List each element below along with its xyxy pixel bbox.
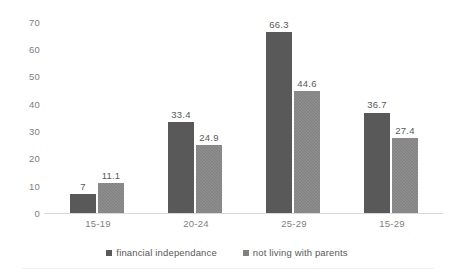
bar-group: 33.4 24.9 <box>146 14 244 213</box>
y-tick-label: 50 <box>6 72 40 82</box>
legend-swatch-icon <box>106 250 112 256</box>
y-tick-label: 0 <box>6 209 40 219</box>
legend-item-financial-independance[interactable]: financial independance <box>106 248 217 258</box>
y-tick-label: 70 <box>6 18 40 28</box>
bar-value-label: 33.4 <box>159 110 203 120</box>
legend-item-not-living-with-parents[interactable]: not living with parents <box>243 248 348 258</box>
bar-value-label: 11.1 <box>89 171 133 181</box>
y-tick-label: 60 <box>6 45 40 55</box>
legend-label: not living with parents <box>253 248 348 258</box>
plot-area: 7 11.1 33.4 24.9 66.3 <box>48 14 442 213</box>
bar-not-living-with-parents[interactable] <box>294 91 320 213</box>
bar-value-label: 44.6 <box>285 79 329 89</box>
bar-value-label: 66.3 <box>257 20 301 30</box>
footer-divider <box>22 268 434 269</box>
bar-group: 36.7 27.4 <box>342 14 440 213</box>
chart-legend: financial independance not living with p… <box>0 248 454 258</box>
bar-group: 66.3 44.6 <box>244 14 342 213</box>
x-category-label: 25-29 <box>244 219 344 229</box>
legend-label: financial independance <box>116 248 217 258</box>
y-tick-label: 30 <box>6 127 40 137</box>
y-tick-label: 20 <box>6 154 40 164</box>
y-axis: 70 60 50 40 30 20 10 0 <box>0 0 40 278</box>
x-category-label: 20-24 <box>146 219 246 229</box>
y-tick-label: 10 <box>6 182 40 192</box>
bar-value-label: 27.4 <box>383 126 427 136</box>
legend-swatch-icon <box>243 250 249 256</box>
bar-not-living-with-parents[interactable] <box>98 183 124 213</box>
bar-financial-independance[interactable] <box>70 194 96 213</box>
bar-financial-independance[interactable] <box>266 32 292 213</box>
bar-chart: 70 60 50 40 30 20 10 0 7 11.1 33.4 <box>0 0 454 278</box>
bar-not-living-with-parents[interactable] <box>196 145 222 213</box>
bar-group: 7 11.1 <box>48 14 146 213</box>
x-axis-line <box>44 213 443 214</box>
x-category-label: 15-29 <box>342 219 442 229</box>
x-category-label: 15-19 <box>48 219 148 229</box>
y-tick-label: 40 <box>6 100 40 110</box>
bar-not-living-with-parents[interactable] <box>392 138 418 213</box>
bar-value-label: 36.7 <box>355 100 399 110</box>
bar-value-label: 24.9 <box>187 133 231 143</box>
